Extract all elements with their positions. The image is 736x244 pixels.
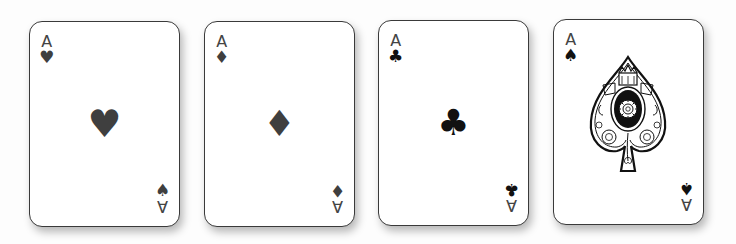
club-icon: ♣ (388, 48, 403, 65)
bottom-right-index: A ♠ (679, 180, 694, 212)
card-ace-of-spades[interactable]: A ♠ A ♠ (553, 19, 704, 225)
bottom-right-index: A ♠ (155, 182, 170, 214)
diamond-icon: ♦ (330, 182, 345, 199)
top-left-index: A ♦ (214, 34, 229, 66)
heart-icon: ♥ (87, 105, 121, 143)
diamond-icon: ♦ (263, 106, 295, 142)
club-icon: ♣ (504, 181, 519, 198)
card-ace-of-diamonds[interactable]: A ♦ ♦ A ♦ (204, 21, 355, 227)
ornate-spade-icon (587, 53, 669, 188)
bottom-right-index: A ♦ (330, 182, 345, 214)
card-ace-of-hearts[interactable]: A ♥ ♥ A ♠ (29, 21, 180, 227)
heart-icon: ♥ (39, 49, 54, 66)
top-left-index: A ♥ (39, 34, 54, 66)
rank-label: A (157, 198, 168, 214)
spade-icon: ♠ (155, 182, 170, 199)
spade-icon: ♠ (563, 47, 578, 64)
spade-icon: ♠ (679, 180, 694, 197)
diamond-icon: ♦ (214, 49, 229, 66)
bottom-right-index: A ♣ (504, 181, 519, 213)
top-left-index: A ♣ (388, 33, 403, 65)
card-ace-of-clubs[interactable]: A ♣ ♣ A ♣ (378, 20, 529, 226)
top-left-index: A ♠ (563, 32, 578, 64)
club-icon: ♣ (437, 105, 469, 141)
